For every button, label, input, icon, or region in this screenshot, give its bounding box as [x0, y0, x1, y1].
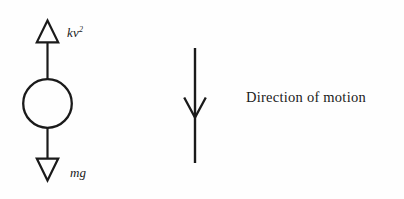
drag-force-label: kv2	[67, 25, 83, 41]
drag-force-arrow	[37, 21, 58, 80]
weight-force-arrow-head-icon	[37, 159, 58, 181]
weight-force-label: mg	[70, 165, 86, 181]
drag-force-label-exponent: 2	[79, 25, 83, 34]
motion-direction-arrow	[184, 48, 206, 163]
free-body-diagram-figure: kv2 mg Direction of motion	[0, 0, 404, 199]
drag-force-label-base: kv	[67, 25, 79, 40]
body-force-group	[23, 21, 72, 181]
drag-force-arrow-head-icon	[37, 21, 58, 43]
weight-force-arrow	[37, 128, 58, 181]
motion-direction-label: Direction of motion	[246, 89, 366, 106]
falling-body-circle	[23, 79, 72, 128]
